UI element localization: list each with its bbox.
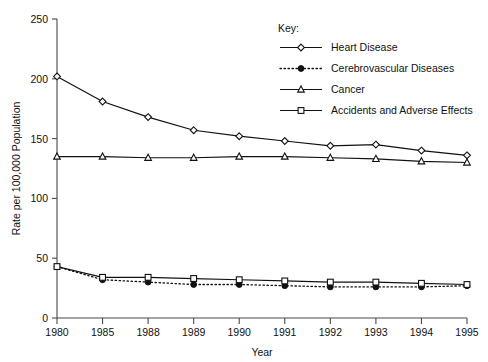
marker-open-square	[145, 274, 151, 280]
line-chart: 0501001502002501980198519881989199019911…	[0, 0, 488, 362]
marker-open-diamond	[236, 133, 243, 140]
x-tick-label: 1985	[91, 326, 115, 338]
legend-item-cerebrovascular-diseases: Cerebrovascular Diseases	[280, 62, 454, 74]
y-tick-label: 200	[30, 73, 48, 85]
marker-open-square	[282, 278, 288, 284]
marker-open-square	[419, 280, 425, 286]
y-tick-label: 50	[36, 252, 48, 264]
marker-open-square	[298, 108, 304, 114]
marker-open-diamond	[372, 141, 379, 148]
marker-open-square	[100, 274, 106, 280]
marker-open-square	[464, 282, 470, 288]
marker-open-diamond	[418, 147, 425, 154]
legend-item-label: Accidents and Adverse Effects	[331, 104, 473, 116]
marker-open-square	[373, 279, 379, 285]
x-tick-label: 1980	[45, 326, 69, 338]
legend-item-label: Heart Disease	[331, 41, 398, 53]
legend-item-label: Cerebrovascular Diseases	[331, 62, 454, 74]
series-cancer	[54, 153, 471, 165]
legend-item-label: Cancer	[331, 83, 365, 95]
x-axis-title: Year	[251, 346, 273, 358]
marker-open-diamond	[99, 98, 106, 105]
x-tick-label: 1995	[455, 326, 479, 338]
marker-open-diamond	[298, 44, 305, 51]
chart-legend: Key:Heart DiseaseCerebrovascular Disease…	[278, 22, 473, 116]
marker-open-diamond	[145, 114, 152, 121]
legend-item-cancer: Cancer	[280, 83, 365, 95]
series-accidents-and-adverse-effects	[54, 264, 470, 288]
legend-title: Key:	[278, 22, 299, 34]
chart-canvas: 0501001502002501980198519881989199019911…	[0, 0, 488, 362]
x-tick-label: 1993	[364, 326, 388, 338]
x-tick-label: 1988	[136, 326, 160, 338]
y-tick-label: 250	[30, 13, 48, 25]
x-tick-label: 1990	[228, 326, 252, 338]
series-cerebrovascular-diseases	[54, 264, 470, 290]
marker-open-diamond	[327, 142, 334, 149]
series-line	[57, 267, 467, 285]
marker-filled-circle	[298, 66, 304, 72]
x-tick-label: 1994	[410, 326, 434, 338]
marker-open-diamond	[281, 138, 288, 145]
x-tick-label: 1989	[182, 326, 206, 338]
marker-open-diamond	[464, 152, 471, 159]
x-tick-label: 1991	[273, 326, 297, 338]
marker-open-square	[236, 277, 242, 283]
y-tick-label: 150	[30, 133, 48, 145]
y-tick-label: 0	[42, 312, 48, 324]
legend-item-accidents-and-adverse-effects: Accidents and Adverse Effects	[280, 104, 473, 116]
y-tick-label: 100	[30, 192, 48, 204]
legend-item-heart-disease: Heart Disease	[280, 41, 398, 53]
series-line	[57, 157, 467, 163]
marker-filled-circle	[191, 282, 197, 288]
y-axis-title: Rate per 100,000 Population	[10, 101, 22, 235]
marker-open-square	[191, 276, 197, 282]
marker-open-diamond	[190, 127, 197, 134]
axis-titles: YearRate per 100,000 Population	[10, 101, 273, 358]
marker-open-square	[327, 279, 333, 285]
marker-open-square	[54, 264, 60, 270]
series-line	[57, 267, 467, 287]
x-tick-label: 1992	[319, 326, 343, 338]
